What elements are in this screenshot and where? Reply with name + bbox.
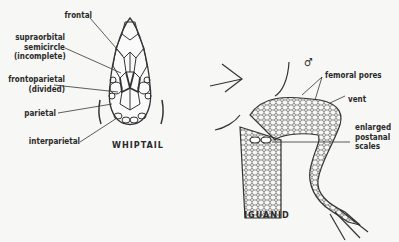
label-enlarged-postanal-scales: enlarged postanal scales [355, 123, 391, 152]
label-frontoparietal-line1: frontoparietal [6, 75, 65, 85]
label-femoral-pores: femoral pores [325, 71, 382, 81]
label-frontoparietal-line2: (divided) [6, 85, 65, 95]
label-postanal-line1: enlarged [355, 123, 391, 133]
label-supraorbital-line2: semicircle [14, 43, 65, 53]
label-interparietal: interparietal [20, 137, 80, 147]
label-frontoparietal: frontoparietal (divided) [6, 75, 65, 94]
caption-whiptail: WHIPTAIL [112, 140, 164, 150]
label-postanal-line3: scales [355, 142, 391, 152]
label-supraorbital: supraorbital semicircle (incomplete) [14, 33, 65, 62]
sex-symbol: ♂ [304, 58, 313, 68]
label-parietal: parietal [20, 109, 56, 119]
caption-iguanid: IGUANID [244, 210, 290, 220]
label-frontal: frontal [60, 11, 92, 21]
label-postanal-line2: postanal [355, 133, 391, 143]
whiptail-head [99, 18, 163, 125]
label-supraorbital-line3: (incomplete) [14, 52, 65, 62]
label-vent: vent [348, 95, 366, 105]
label-supraorbital-line1: supraorbital [14, 33, 65, 43]
